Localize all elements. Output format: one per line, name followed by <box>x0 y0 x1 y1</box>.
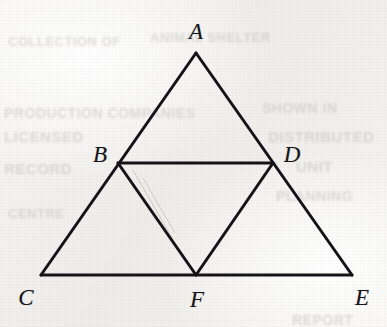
vertex-label-E: E <box>355 286 369 309</box>
segment-DF <box>196 163 273 275</box>
pencil-mark <box>133 170 172 238</box>
segment-BF <box>118 163 196 275</box>
vertex-label-C: C <box>18 286 33 309</box>
geometry-figure <box>0 0 387 327</box>
vertex-label-B: B <box>93 143 107 166</box>
figure-page: COLLECTION OFANIMAL SHELTERPRODUCTION CO… <box>0 0 387 327</box>
segment-layer <box>41 53 352 275</box>
vertex-label-D: D <box>284 143 301 166</box>
vertex-label-F: F <box>190 288 204 311</box>
stray-pencil-marks <box>133 170 175 238</box>
vertex-label-A: A <box>189 20 203 43</box>
